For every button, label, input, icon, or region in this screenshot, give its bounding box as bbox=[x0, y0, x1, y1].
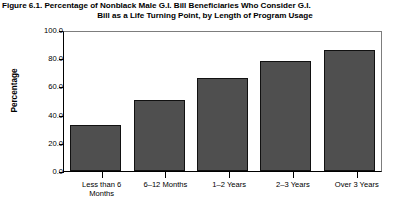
figure-title-line-1: Figure 6.1. Percentage of Nonblack Male … bbox=[2, 1, 394, 11]
bar-slot-1 bbox=[127, 32, 190, 171]
x-tick-mark-4 bbox=[357, 172, 358, 178]
y-tick-label-40: 40.0 bbox=[22, 112, 63, 120]
plot-area bbox=[63, 31, 382, 172]
x-tick-mark-3 bbox=[293, 172, 294, 178]
bar-1-2-years[interactable] bbox=[197, 78, 248, 171]
bar-series bbox=[64, 32, 381, 171]
figure-container: Figure 6.1. Percentage of Nonblack Male … bbox=[0, 0, 396, 204]
bar-2-3-years[interactable] bbox=[260, 61, 311, 171]
y-tick-label-100: 100.0 bbox=[22, 27, 63, 35]
x-tick-mark-1 bbox=[165, 172, 166, 178]
x-tick-label-over-3-years: Over 3 Years bbox=[320, 180, 394, 189]
bar-over-3-years[interactable] bbox=[324, 50, 375, 171]
x-tick-mark-2 bbox=[229, 172, 230, 178]
y-tick-label-0: 0.0 bbox=[22, 168, 63, 176]
y-tick-mark-0 bbox=[59, 172, 64, 173]
y-tick-label-80: 80.0 bbox=[22, 55, 63, 63]
figure-title: Figure 6.1. Percentage of Nonblack Male … bbox=[2, 1, 394, 22]
bar-6-12-months[interactable] bbox=[134, 100, 185, 171]
bar-slot-0 bbox=[64, 32, 127, 171]
bar-slot-2 bbox=[191, 32, 254, 171]
y-tick-label-60: 60.0 bbox=[22, 84, 63, 92]
bar-slot-3 bbox=[254, 32, 317, 171]
bar-less-than-6-months[interactable] bbox=[70, 125, 121, 171]
bar-slot-4 bbox=[318, 32, 381, 171]
x-tick-mark-0 bbox=[102, 172, 103, 178]
figure-title-line-2: Bill as a Life Turning Point, by Length … bbox=[2, 11, 394, 21]
y-tick-label-20: 20.0 bbox=[22, 140, 63, 148]
y-axis-title: Percentage bbox=[10, 51, 19, 131]
